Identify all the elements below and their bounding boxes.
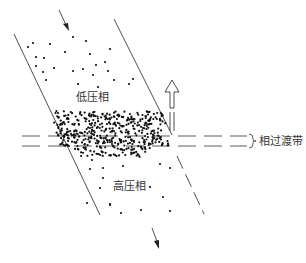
particle [137,114,139,116]
particle [90,132,92,134]
particle [109,128,111,130]
particle [67,114,69,116]
particle [128,130,130,132]
particle [91,154,93,156]
low-pressure-phase-label: 低压相 [76,91,109,104]
particle [117,142,119,144]
particle [66,144,68,146]
particle [160,112,162,114]
particle [145,138,147,140]
particle [159,119,161,121]
particle [154,141,156,143]
particle [97,86,99,88]
particle [150,116,152,118]
particle [57,126,59,128]
particle [75,115,77,117]
particle [42,71,44,73]
particle [106,113,108,115]
particle [113,130,115,132]
particle [113,79,115,81]
particle [114,132,116,134]
particle [143,139,145,141]
particle [91,126,93,128]
particle [166,140,168,142]
particle [131,121,133,123]
particle [97,120,99,122]
particle [60,137,62,139]
particle [137,122,139,124]
particle [63,121,65,123]
particle [151,139,153,141]
particle [84,131,86,133]
particle [73,141,75,143]
particle [127,143,129,145]
particle [140,209,142,211]
particle [105,137,107,139]
particle [69,130,71,132]
particle [102,167,104,169]
particle [54,112,56,114]
particle [112,145,114,147]
particle [70,111,72,113]
particle [76,132,78,134]
particle [73,130,75,132]
particle [91,129,93,131]
particle [94,122,96,124]
particle [132,78,134,80]
particle [63,136,65,138]
particle [106,135,108,137]
particle [77,120,79,122]
particle [118,154,120,156]
particle [96,135,98,137]
particle [137,153,139,155]
particle [72,70,74,72]
particle [66,117,68,119]
particle [122,165,124,167]
particle [146,111,148,113]
particle [110,139,112,141]
particle [76,145,78,147]
particle [88,136,90,138]
particle [80,151,82,153]
particle [133,148,135,150]
particle [117,113,119,115]
particle [157,128,159,130]
particle [162,142,164,144]
particle [92,119,94,121]
particle [67,137,69,139]
particle [86,132,88,134]
particle [153,132,155,134]
particle [99,123,101,125]
particle [130,117,132,119]
particle [101,150,103,152]
particle [89,168,91,170]
particle [77,148,79,150]
particle [125,148,127,150]
particle [131,146,133,148]
band-motion-up-arrow-icon [165,80,179,131]
particle [83,134,85,136]
particle [120,148,122,150]
particle [93,151,95,153]
particle [132,120,134,122]
particle [169,167,171,169]
particle [127,132,129,134]
particle [131,143,133,145]
particle [57,112,59,114]
particle [86,155,88,157]
particle [138,130,140,132]
particle [83,144,85,146]
particle [125,129,127,131]
particle [114,122,116,124]
particle [149,123,151,125]
particle [89,53,91,55]
particle [109,114,111,116]
particle [101,113,103,115]
particle [78,135,80,137]
particle [122,151,124,153]
particle [128,83,130,85]
particle [152,134,154,136]
particle [164,122,166,124]
particle [110,117,112,119]
particle [63,115,65,117]
